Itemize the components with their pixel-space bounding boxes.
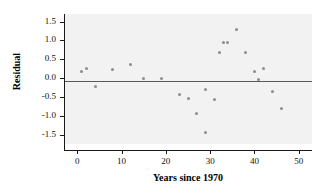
residual-scatter-chart: 01020304050 1.51.00.50.0-0.5-1.0-1.5 Yea… xyxy=(0,0,330,195)
x-tick-mark xyxy=(166,150,167,154)
x-tick-label: 30 xyxy=(198,156,222,166)
y-axis-label: Residual xyxy=(11,32,22,112)
x-tick-mark xyxy=(122,150,123,154)
x-tick-label: 40 xyxy=(242,156,266,166)
x-axis-line xyxy=(64,150,312,151)
y-tick-label: 0.0 xyxy=(20,72,56,82)
zero-reference-line xyxy=(64,81,312,82)
x-tick-label: 10 xyxy=(110,156,134,166)
data-point xyxy=(178,93,181,96)
y-tick-label: -1.5 xyxy=(20,129,56,139)
x-tick-label: 50 xyxy=(287,156,311,166)
data-point xyxy=(280,107,283,110)
data-point xyxy=(262,67,265,70)
y-tick-mark xyxy=(60,97,64,98)
x-tick-label: 0 xyxy=(65,156,89,166)
y-axis-line xyxy=(64,14,65,151)
x-tick-mark xyxy=(77,150,78,154)
y-tick-label: -1.0 xyxy=(20,110,56,120)
y-tick-mark xyxy=(60,78,64,79)
y-tick-label: -0.5 xyxy=(20,91,56,101)
plot-area-background xyxy=(64,14,312,144)
y-tick-mark xyxy=(60,22,64,23)
y-tick-mark xyxy=(60,40,64,41)
y-tick-label: 1.0 xyxy=(20,34,56,44)
x-tick-mark xyxy=(299,150,300,154)
data-point xyxy=(218,51,221,54)
data-point xyxy=(160,77,163,80)
data-point xyxy=(85,67,88,70)
data-point xyxy=(244,51,247,54)
x-tick-label: 20 xyxy=(154,156,178,166)
y-tick-mark xyxy=(60,59,64,60)
data-point xyxy=(235,28,238,31)
y-tick-mark xyxy=(60,135,64,136)
data-point xyxy=(187,97,190,100)
data-point xyxy=(271,90,274,93)
y-tick-mark xyxy=(60,116,64,117)
x-tick-mark xyxy=(210,150,211,154)
y-tick-label: 1.5 xyxy=(20,16,56,26)
x-tick-mark xyxy=(254,150,255,154)
x-axis-label: Years since 1970 xyxy=(64,172,312,183)
y-tick-label: 0.5 xyxy=(20,53,56,63)
data-point xyxy=(94,85,97,88)
